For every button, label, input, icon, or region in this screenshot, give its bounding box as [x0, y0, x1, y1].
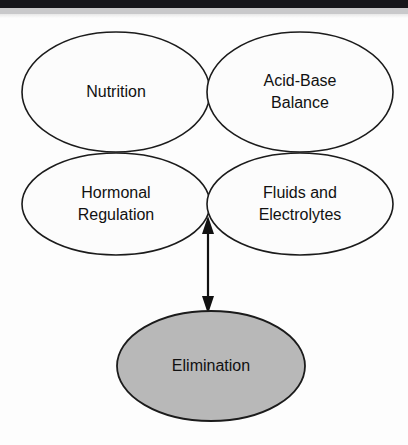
acid-base-balance-label-line-2: Balance — [271, 94, 329, 111]
node-nutrition[interactable]: Nutrition — [22, 32, 210, 152]
fluids-and-electrolytes-label-line-2: Electrolytes — [259, 206, 342, 223]
nutrition-label: Nutrition — [86, 83, 146, 100]
node-acid-base-balance[interactable]: Acid-Base Balance — [207, 32, 393, 152]
fluids-and-electrolytes-ellipse-shape — [207, 153, 393, 255]
node-fluids-and-electrolytes[interactable]: Fluids and Electrolytes — [207, 153, 393, 255]
scan-dark-edge-bar — [0, 0, 408, 8]
fluids-and-electrolytes-label-line-1: Fluids and — [263, 184, 337, 201]
elimination-label: Elimination — [172, 357, 250, 374]
node-elimination[interactable]: Elimination — [117, 311, 305, 421]
hormonal-regulation-label-line-1: Hormonal — [81, 184, 150, 201]
concept-diagram: Nutrition Acid-Base Balance Hormonal Reg… — [0, 18, 408, 445]
hormonal-regulation-label-line-2: Regulation — [78, 206, 155, 223]
scanned-figure-page: Nutrition Acid-Base Balance Hormonal Reg… — [0, 0, 408, 445]
acid-base-balance-ellipse-shape — [207, 32, 393, 152]
hormonal-regulation-ellipse-shape — [22, 153, 210, 255]
diagram-canvas: Nutrition Acid-Base Balance Hormonal Reg… — [0, 18, 408, 445]
acid-base-balance-label-line-1: Acid-Base — [264, 72, 337, 89]
node-hormonal-regulation[interactable]: Hormonal Regulation — [22, 153, 210, 255]
connector-cluster-to-elimination — [202, 216, 214, 314]
